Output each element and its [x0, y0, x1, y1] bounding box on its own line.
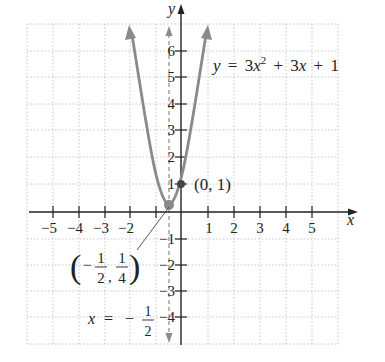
y-intercept-label: (0, 1)	[194, 175, 231, 194]
y-axis-label: y	[166, 0, 176, 18]
curve-arrow-left-icon	[125, 25, 136, 40]
x-tick-label: 3	[256, 220, 264, 236]
vertex-point	[164, 200, 174, 210]
svg-text:(: (	[70, 248, 81, 286]
curve-arrow-right-icon	[201, 25, 212, 40]
x-tick-label: −4	[67, 220, 83, 236]
x-tick-label: −3	[93, 220, 109, 236]
x-axis-label: x	[346, 211, 354, 228]
y-tick-label: −1	[159, 231, 175, 247]
x-tick-label: 2	[230, 220, 238, 236]
y-tick-label: 1	[168, 176, 176, 192]
y-tick-label: 6	[168, 43, 176, 59]
svg-text:x: x	[87, 310, 95, 327]
parabola-graph: −5 −4 −3 −2 1 2 3 4 5 6 5 4 3 2 1 −1 −2 …	[0, 0, 385, 362]
svg-text:1: 1	[97, 250, 105, 266]
svg-text:1: 1	[118, 250, 126, 266]
y-tick-label: 5	[168, 69, 176, 85]
svg-text:2: 2	[145, 324, 152, 339]
y-intercept-point	[177, 180, 185, 188]
svg-text:−: −	[83, 257, 91, 273]
equation-label: y = 3x2 + 3x + 1	[211, 49, 339, 75]
x-tick-label: 1	[205, 220, 213, 236]
y-tick-labels: 6 5 4 3 2 1 −1 −2 −3 −4	[159, 43, 175, 325]
x-tick-label: 5	[308, 220, 316, 236]
svg-text:=: =	[104, 310, 113, 327]
svg-text:4: 4	[118, 270, 126, 286]
x-tick-label: −5	[41, 220, 57, 236]
y-tick-label: −3	[159, 283, 175, 299]
y-tick-label: 3	[168, 122, 176, 138]
svg-text:2: 2	[97, 270, 105, 286]
x-tick-label: 4	[282, 220, 290, 236]
x-tick-label: −2	[118, 220, 134, 236]
y-tick-label: −2	[159, 257, 175, 273]
y-tick-label: 4	[168, 96, 176, 112]
svg-text:1: 1	[145, 304, 152, 319]
x-tick-labels: −5 −4 −3 −2 1 2 3 4 5	[41, 220, 316, 236]
y-axis-arrow-icon	[178, 4, 185, 14]
axis-of-symmetry-label: x = − 1 2	[87, 304, 154, 339]
svg-text:,: ,	[108, 269, 112, 285]
y-tick-label: 2	[168, 149, 176, 165]
svg-text:−: −	[125, 310, 134, 327]
svg-text:): )	[129, 248, 140, 286]
y-tick-label: −4	[159, 309, 175, 325]
